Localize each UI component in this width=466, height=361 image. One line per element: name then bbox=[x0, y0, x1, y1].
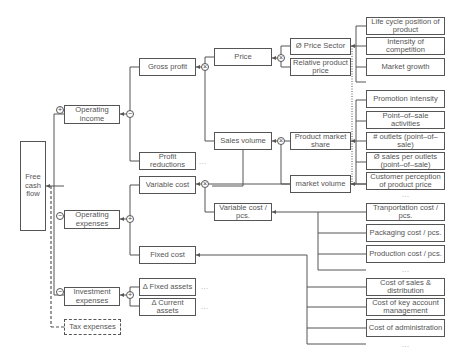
cost-administration-node: Cost of administration bbox=[366, 319, 445, 337]
ellipsis: ... bbox=[402, 341, 409, 348]
operating-expenses-node: Operating expenses bbox=[64, 210, 120, 229]
times-operator-icon: × bbox=[277, 137, 285, 145]
ellipsis: ... bbox=[201, 283, 208, 290]
packaging-cost-node: Packaging cost / pcs. bbox=[366, 224, 445, 242]
ellipsis: ... bbox=[201, 303, 208, 310]
variable-cost-per-pcs-node: Variable cost / pcs. bbox=[214, 203, 272, 221]
ellipsis: ... bbox=[402, 191, 409, 198]
pos-activities-node: Point–of–sale activities bbox=[366, 111, 445, 129]
profit-reductions-node: Profit reductions bbox=[139, 152, 196, 170]
plus-operator-icon: + bbox=[126, 215, 134, 223]
price-sector-node: Ø Price Sector bbox=[290, 38, 351, 55]
plus-operator-icon: + bbox=[126, 291, 134, 299]
variable-cost-node: Variable cost bbox=[139, 176, 196, 194]
times-operator-icon: × bbox=[201, 180, 209, 188]
product-market-share-node: Product market share bbox=[290, 132, 351, 150]
transport-cost-node: Tranportation cost / pcs. bbox=[366, 203, 445, 221]
free-cash-flow-node: Free cash flow bbox=[20, 141, 46, 231]
times-operator-icon: × bbox=[277, 54, 285, 62]
relative-product-price-node: Relative product price bbox=[290, 58, 351, 76]
tax-expenses-node: Tax expenses bbox=[64, 319, 121, 335]
market-volume-node: market volume bbox=[290, 175, 351, 193]
sales-per-outlet-node: Ø sales per outlets (point–of–sale) bbox=[366, 152, 445, 170]
promotion-intensity-node: Promotion intensity bbox=[366, 90, 445, 108]
gross-profit-node: Gross profit bbox=[139, 58, 196, 76]
times-operator-icon: × bbox=[201, 63, 209, 71]
intensity-competition-node: Intensity of competition bbox=[366, 37, 445, 55]
price-node: Price bbox=[214, 48, 272, 66]
sales-volume-node: Sales volume bbox=[214, 132, 272, 150]
market-growth-node: Market growth bbox=[366, 58, 445, 76]
fixed-assets-node: Δ Fixed assets bbox=[139, 278, 196, 296]
cost-key-account-node: Cost of key account management bbox=[366, 298, 445, 316]
current-assets-node: Δ Current assets bbox=[139, 298, 196, 316]
outlets-node: # outlets (point–of–sale) bbox=[366, 132, 445, 150]
minus-operator-icon: − bbox=[126, 110, 134, 118]
production-cost-node: Production cost / pcs. bbox=[366, 245, 445, 263]
cost-sales-distribution-node: Cost of sales & distribution bbox=[366, 278, 445, 296]
minus-operator-icon: − bbox=[56, 288, 64, 296]
operating-income-node: Operating income bbox=[64, 105, 120, 124]
investment-expenses-node: Investment expenses bbox=[64, 287, 120, 306]
fixed-cost-node: Fixed cost bbox=[139, 246, 196, 264]
minus-operator-icon: − bbox=[56, 212, 64, 220]
ellipsis: ... bbox=[199, 158, 206, 165]
ellipsis: ... bbox=[402, 266, 409, 273]
plus-operator-icon: + bbox=[56, 106, 64, 114]
customer-perception-node: Customer perception of product price bbox=[366, 172, 445, 190]
life-cycle-node: Life cycle position of product bbox=[366, 17, 445, 35]
